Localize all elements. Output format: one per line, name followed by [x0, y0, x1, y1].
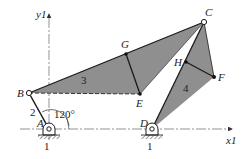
label-link-4: 4: [183, 82, 189, 94]
label-y1: y1: [35, 8, 46, 20]
label-E: E: [135, 97, 143, 109]
label-B: B: [17, 87, 24, 99]
label-F: F: [217, 71, 225, 83]
label-G: G: [121, 38, 129, 50]
label-ground-1-D: 1: [147, 140, 153, 152]
point-E: [138, 92, 142, 96]
diagram-svg: y1 x1 C G B E H F A D 2 3 4 1 1 120°: [0, 0, 246, 159]
label-angle: 120°: [54, 108, 75, 120]
point-G: [124, 52, 128, 56]
point-H: [184, 60, 188, 64]
label-link-2: 2: [30, 106, 36, 118]
label-link-3: 3: [81, 74, 87, 86]
label-C: C: [205, 6, 213, 18]
label-H: H: [173, 56, 183, 68]
label-ground-1-A: 1: [44, 140, 50, 152]
joint-C: [201, 19, 206, 24]
linkage-diagram: y1 x1 C G B E H F A D 2 3 4 1 1 120°: [0, 0, 246, 159]
joint-B: [26, 90, 31, 95]
label-D: D: [139, 117, 148, 129]
label-x1: x1: [225, 134, 236, 146]
point-F: [212, 75, 216, 79]
label-A: A: [36, 117, 44, 129]
